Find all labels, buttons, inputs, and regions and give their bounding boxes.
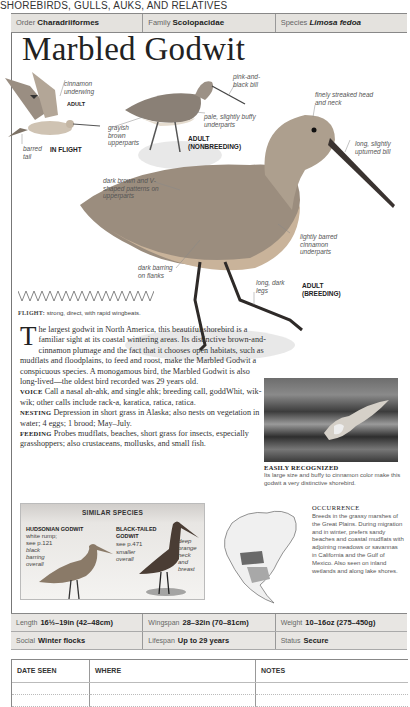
flight-photo: [264, 378, 398, 462]
label-pink-black-bill: pink-and-black bill: [233, 73, 273, 88]
label-streaked-head: finely streaked head and neck: [315, 91, 375, 106]
label-upperparts-pattern: dark brown and V-shaped patterns on uppe…: [103, 177, 165, 200]
label-grayish-upperparts: grayish brown upperparts: [108, 124, 148, 147]
status-label: Status: [281, 637, 301, 644]
voice-label: VOICE: [20, 388, 43, 395]
flying-godwit-icon: [264, 378, 398, 462]
date-seen-header: DATE SEEN: [12, 660, 90, 682]
status-cell: StatusSecure: [276, 632, 407, 649]
lifespan-label: Lifespan: [148, 637, 174, 644]
weight-cell: Weight10–16oz (275–450g): [276, 614, 407, 631]
feeding-text: Probes mudflats, beaches, short grass fo…: [20, 429, 249, 448]
flight-pattern-icon: [18, 289, 154, 303]
log-row[interactable]: [12, 683, 408, 695]
photo-title: EASILY RECOGNIZED: [264, 464, 339, 471]
wingspan-value: 28–32in (70–81cm): [182, 618, 248, 627]
drop-cap: T: [20, 325, 37, 347]
species-description: The largest godwit in North America, thi…: [20, 325, 268, 450]
label-upturned-bill: long, slightly upturned bill: [355, 140, 405, 155]
label-barred-tail: barred tail: [23, 145, 43, 160]
caption-adult-breeding: ADULT(BREEDING): [302, 282, 341, 298]
where-field[interactable]: [90, 695, 256, 707]
label-long-legs: long, dark legs: [256, 279, 286, 294]
sighting-log: DATE SEEN WHERE NOTES: [11, 659, 408, 707]
stats-row-2: SocialWinter flocks LifespanUp to 29 yea…: [11, 632, 407, 650]
length-label: Length: [16, 619, 37, 626]
label-dark-barring: dark barring on flanks: [138, 264, 178, 279]
flight-description: FLIGHT: strong, direct, with rapid wingb…: [18, 310, 141, 316]
social-label: Social: [16, 637, 35, 644]
nesting-text: Depression in short grass in Alaska; als…: [20, 408, 259, 427]
caption-adult-nonbreeding: ADULT(NONBREEDING): [188, 135, 241, 151]
label-cinnamon-underparts: lightly barred cinnamon underparts: [300, 233, 345, 256]
social-value: Winter flocks: [38, 636, 85, 645]
where-field[interactable]: [90, 683, 256, 695]
similar-birds-icon: [21, 504, 204, 599]
where-header: WHERE: [90, 660, 256, 682]
flight-label: FLIGHT:: [18, 310, 45, 316]
caption-in-flight: IN FLIGHT: [50, 146, 82, 154]
notes-field[interactable]: [256, 683, 408, 695]
wingspan-cell: Wingspan28–32in (70–81cm): [143, 614, 275, 631]
lifespan-value: Up to 29 years: [178, 636, 229, 645]
stats-row-1: Length16½–19in (42–48cm) Wingspan28–32in…: [11, 613, 407, 632]
bird-illustrations: [0, 0, 407, 380]
caption-flight-adult: ADULT: [67, 100, 85, 108]
date-seen-field[interactable]: [12, 683, 90, 695]
feeding-label: FEEDING: [20, 430, 52, 437]
label-cinnamon-underwing: cinnamon underwing: [64, 80, 104, 95]
date-seen-field[interactable]: [12, 695, 90, 707]
log-header: DATE SEEN WHERE NOTES: [12, 660, 408, 683]
similar-species-box: SIMILAR SPECIES HUDSONIAN GODWIT white r…: [20, 503, 205, 600]
lifespan-cell: LifespanUp to 29 years: [143, 632, 275, 649]
status-value: Secure: [304, 636, 329, 645]
photo-caption: Its large size and buffy to cinnamon col…: [264, 472, 404, 487]
caption-adult: ADULT: [302, 282, 324, 289]
range-map-icon: [212, 505, 307, 605]
log-row[interactable]: [12, 695, 408, 707]
notes-header: NOTES: [256, 660, 408, 682]
length-cell: Length16½–19in (42–48cm): [11, 614, 143, 631]
occurrence-title: OCCURRENCE: [312, 504, 360, 511]
caption-breeding: (BREEDING): [302, 290, 341, 297]
occurrence-text: Breeds in the grassy marshes of the Grea…: [312, 513, 404, 575]
flight-text: strong, direct, with rapid wingbeats.: [47, 310, 141, 316]
length-value: 16½–19in (42–48cm): [40, 618, 113, 627]
voice-text: Call a nasal ah-ahk, and single ahk; bre…: [20, 387, 261, 406]
caption-adult: ADULT: [188, 135, 210, 142]
wingspan-label: Wingspan: [148, 619, 179, 626]
weight-value: 10–16oz (275–450g): [305, 618, 375, 627]
nesting-label: NESTING: [20, 409, 51, 416]
social-cell: SocialWinter flocks: [11, 632, 143, 649]
notes-field[interactable]: [256, 695, 408, 707]
caption-nonbreeding: (NONBREEDING): [188, 143, 241, 150]
label-pale-underparts: pale, slightly buffy underparts: [204, 113, 274, 128]
stats-table: Length16½–19in (42–48cm) Wingspan28–32in…: [11, 613, 407, 650]
weight-label: Weight: [281, 619, 303, 626]
intro-text: he largest godwit in North America, this…: [20, 325, 266, 386]
